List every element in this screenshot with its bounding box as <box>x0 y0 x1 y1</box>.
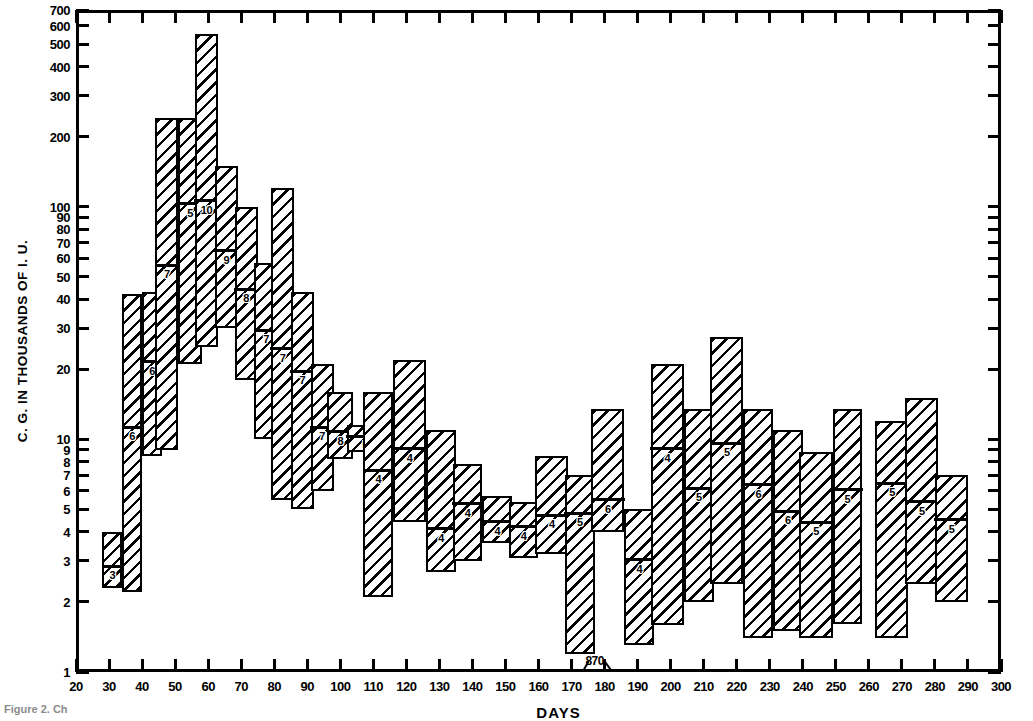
x-tick-label: 180 <box>594 680 614 693</box>
x-tick-label: 190 <box>627 680 647 693</box>
x-tick-label: 20 <box>69 680 82 693</box>
plot-area: 1234567891020304050607080901002003004005… <box>76 10 1001 672</box>
y-tick-label: 6 <box>63 484 70 497</box>
x-tick-label: 280 <box>925 680 945 693</box>
x-tick-label: 240 <box>793 680 813 693</box>
x-tick-label: 220 <box>727 680 747 693</box>
y-tick-label: 60 <box>57 252 70 265</box>
y-tick-label: 700 <box>50 4 70 17</box>
figure-caption: Figure 2. Ch <box>4 703 68 715</box>
x-tick-label: 130 <box>429 680 449 693</box>
y-tick-label: 70 <box>57 236 70 249</box>
x-tick-label: 140 <box>462 680 482 693</box>
x-tick-label: 100 <box>330 680 350 693</box>
y-tick-label: 300 <box>50 89 70 102</box>
y-tick-label: 1 <box>63 666 70 679</box>
x-tick-label: 110 <box>364 680 383 693</box>
y-tick-label: 600 <box>50 19 70 32</box>
y-tick-label: 10 <box>57 433 70 446</box>
y-tick-label: 40 <box>57 293 70 306</box>
x-axis-title: DAYS <box>536 704 580 721</box>
x-tick-label: 40 <box>135 680 148 693</box>
y-tick-label: 400 <box>50 60 70 73</box>
x-tick-label: 230 <box>760 680 780 693</box>
y-tick-label: 4 <box>63 525 70 538</box>
y-tick-label: 500 <box>50 38 70 51</box>
y-tick-label: 3 <box>63 554 70 567</box>
x-tick-label: 260 <box>859 680 879 693</box>
y-tick-label: 30 <box>57 322 70 335</box>
x-tick-label: 60 <box>201 680 214 693</box>
x-tick-label: 120 <box>396 680 416 693</box>
y-tick-label: 200 <box>50 130 70 143</box>
y-axis-title: C. G. IN THOUSANDS OF I. U. <box>15 240 30 443</box>
y-tick-label: 20 <box>57 363 70 376</box>
y-tick-label: 2 <box>63 595 70 608</box>
y-tick-label: 7 <box>63 469 70 482</box>
x-tick-label: 210 <box>694 680 714 693</box>
x-tick-label: 90 <box>301 680 314 693</box>
x-tick-label: 170 <box>561 680 581 693</box>
x-tick-label: 270 <box>892 680 912 693</box>
x-tick-label: 150 <box>495 680 515 693</box>
x-tick-label: 160 <box>528 680 548 693</box>
y-tick-label: 5 <box>63 503 70 516</box>
x-tick-label: 30 <box>102 680 115 693</box>
x-tick-label: 290 <box>958 680 978 693</box>
x-tick-label: 300 <box>991 680 1011 693</box>
y-tick-label: 50 <box>57 270 70 283</box>
x-tick-label: 250 <box>826 680 846 693</box>
x-tick-label: 50 <box>168 680 181 693</box>
x-tick-label: 200 <box>661 680 681 693</box>
x-tick-label: 80 <box>267 680 280 693</box>
y-tick-label: 100 <box>50 200 70 213</box>
x-tick-label: 70 <box>234 680 247 693</box>
annotation-leader-lines <box>76 10 1001 672</box>
